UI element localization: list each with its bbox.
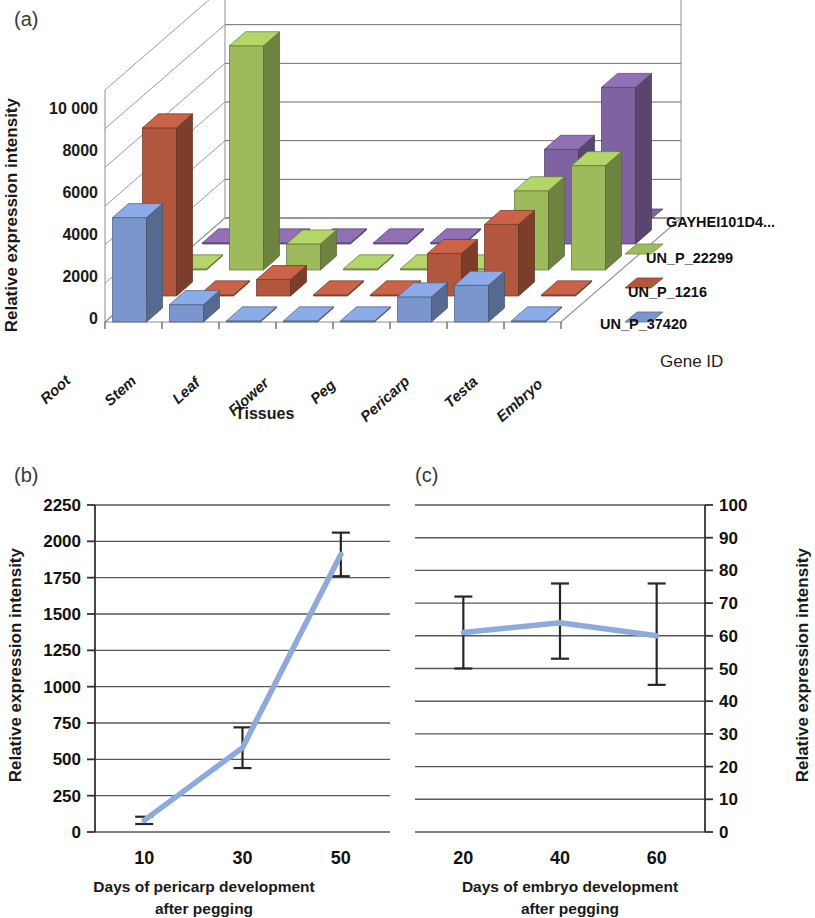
legend-label-un-p-22299: UN_P_22299 <box>646 250 733 266</box>
y-tick-label: 1250 <box>43 641 81 660</box>
y-tick-label: 10 <box>719 790 738 809</box>
panel-c-label: (c) <box>415 464 438 487</box>
panel-a-y-axis-title: Relative expression intensity <box>2 95 22 335</box>
y-tick-label: 90 <box>719 529 738 548</box>
panel-a-label: (a) <box>14 8 38 31</box>
panel-b-line-chart: (b) Relative expression intensity 025050… <box>0 460 408 916</box>
y-tick-label: 50 <box>719 660 738 679</box>
x-tick-label: 50 <box>331 848 351 868</box>
y-tick-label: 8000 <box>18 142 98 160</box>
x-tick-label: 60 <box>647 848 667 868</box>
panel-c-x-axis-title-line2: after pegging <box>365 900 775 918</box>
y-tick-label: 1500 <box>43 605 81 624</box>
y-tick-label: 100 <box>719 496 747 515</box>
panel-a-z-axis-title: Gene ID <box>660 352 723 372</box>
legend-label-un-p-37420: UN_P_37420 <box>600 316 687 332</box>
panel-b-label: (b) <box>14 464 38 487</box>
y-tick-label: 2000 <box>18 268 98 286</box>
y-tick-label: 20 <box>719 758 738 777</box>
panel-a-x-axis-title: Tissues <box>235 405 294 423</box>
panel-b-x-axis-title-line2: after pegging <box>0 900 408 918</box>
y-tick-label: 500 <box>53 750 81 769</box>
y-tick-label: 80 <box>719 561 738 580</box>
panel-b-plot-area: 0250500750100012501500175020002250103050 <box>0 460 408 916</box>
legend-label-un-p-1216: UN_P_1216 <box>628 284 707 300</box>
panel-a-3d-bar-chart: (a) Relative expression intensity 0 2000… <box>0 0 815 460</box>
panel-c-line-chart: (c) Relative expression intensity 010203… <box>405 460 815 916</box>
legend-label-gayhei101d4: GAYHEI101D4... <box>666 214 775 230</box>
panel-c-plot-area: 0102030405060708090100204060 <box>405 460 815 916</box>
y-tick-label: 1000 <box>43 678 81 697</box>
y-tick-label: 30 <box>719 725 738 744</box>
y-tick-label: 0 <box>18 310 98 328</box>
panel-c-y-axis-title: Relative expression intensity <box>793 490 813 840</box>
y-tick-label: 1750 <box>43 569 81 588</box>
y-tick-label: 250 <box>53 787 81 806</box>
y-tick-label: 0 <box>72 823 81 842</box>
x-tick-label: 30 <box>232 848 252 868</box>
x-tick-label: 10 <box>134 848 154 868</box>
y-tick-label: 60 <box>719 627 738 646</box>
y-tick-label: 10 000 <box>8 100 98 118</box>
x-tick-label: 40 <box>550 848 570 868</box>
y-tick-label: 2250 <box>43 496 81 515</box>
y-tick-label: 0 <box>719 823 728 842</box>
y-tick-label: 40 <box>719 692 738 711</box>
y-tick-label: 2000 <box>43 532 81 551</box>
y-tick-label: 4000 <box>18 226 98 244</box>
y-tick-label: 750 <box>53 714 81 733</box>
panel-b-y-axis-title: Relative expression intensity <box>6 490 26 840</box>
panel-b-x-axis-title-line1: Days of pericarp development <box>0 878 408 896</box>
y-tick-label: 6000 <box>18 184 98 202</box>
y-tick-label: 70 <box>719 594 738 613</box>
x-tick-label: 20 <box>453 848 473 868</box>
panel-c-x-axis-title-line1: Days of embryo development <box>365 878 775 896</box>
